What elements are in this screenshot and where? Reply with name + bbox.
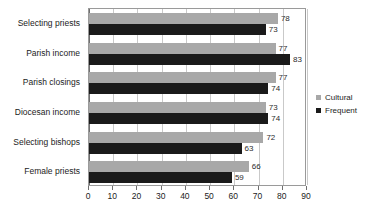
bar-value-label: 77 <box>279 43 288 54</box>
y-axis-label-1: Parish income <box>26 48 80 58</box>
gridline <box>162 9 163 185</box>
bar-frequent-3 <box>89 113 268 124</box>
bar-cultural-3 <box>89 102 266 113</box>
bar-frequent-4 <box>89 143 242 154</box>
x-axis-tick-label: 50 <box>204 191 213 201</box>
bar-value-label: 73 <box>269 24 278 35</box>
x-axis-tick <box>88 186 89 190</box>
y-axis-label-4: Selecting bishops <box>13 137 80 147</box>
x-axis-tick <box>112 186 113 190</box>
plot-area: 787377837774737472636659 <box>88 8 306 186</box>
bar-cultural-0 <box>89 13 278 24</box>
x-axis-tick <box>161 186 162 190</box>
x-axis-tick-label: 60 <box>229 191 238 201</box>
gridline <box>307 9 308 185</box>
gridline <box>210 9 211 185</box>
x-axis-tick-label: 70 <box>253 191 262 201</box>
x-axis-tick <box>209 186 210 190</box>
bar-cultural-4 <box>89 132 263 143</box>
bar-value-label: 77 <box>279 72 288 83</box>
legend-item-frequent[interactable]: Frequent <box>316 105 357 116</box>
gridline <box>186 9 187 185</box>
bar-chart: Selecting priestsParish incomeParish clo… <box>0 0 378 220</box>
legend-label: Cultural <box>325 92 353 103</box>
bar-value-label: 83 <box>293 54 302 65</box>
bar-value-label: 66 <box>252 161 261 172</box>
bar-frequent-1 <box>89 54 290 65</box>
bar-value-label: 74 <box>271 113 280 124</box>
chart-legend: CulturalFrequent <box>316 92 357 118</box>
bar-frequent-0 <box>89 24 266 35</box>
x-axis-tick-label: 80 <box>277 191 286 201</box>
legend-label: Frequent <box>325 105 357 116</box>
gridline <box>113 9 114 185</box>
x-axis-tick-label: 40 <box>180 191 189 201</box>
x-axis-tick <box>282 186 283 190</box>
bar-value-label: 74 <box>271 83 280 94</box>
x-axis-tick <box>258 186 259 190</box>
bar-value-label: 59 <box>235 172 244 183</box>
bar-frequent-2 <box>89 83 268 94</box>
bar-value-label: 78 <box>281 13 290 24</box>
bar-cultural-5 <box>89 161 249 172</box>
bar-cultural-2 <box>89 72 276 83</box>
gridline <box>234 9 235 185</box>
y-axis-labels: Selecting priestsParish incomeParish clo… <box>0 8 84 186</box>
x-axis-tick-label: 30 <box>156 191 165 201</box>
x-axis-tick <box>136 186 137 190</box>
x-axis-tick <box>233 186 234 190</box>
legend-swatch-frequent-icon <box>316 108 321 113</box>
y-axis-label-3: Diocesan income <box>15 107 80 117</box>
legend-item-cultural[interactable]: Cultural <box>316 92 357 103</box>
gridline <box>137 9 138 185</box>
bar-value-label: 72 <box>266 132 275 143</box>
y-axis-label-2: Parish closings <box>23 77 80 87</box>
gridline <box>283 9 284 185</box>
bar-value-label: 73 <box>269 102 278 113</box>
legend-swatch-cultural-icon <box>316 95 321 100</box>
y-axis-label-5: Female priests <box>24 166 80 176</box>
bar-cultural-1 <box>89 43 276 54</box>
x-axis-tick <box>185 186 186 190</box>
bar-value-label: 63 <box>245 143 254 154</box>
x-axis-tick <box>306 186 307 190</box>
x-axis: 0102030405060708090 <box>88 186 306 212</box>
y-axis-label-0: Selecting priests <box>18 18 80 28</box>
gridline <box>259 9 260 185</box>
x-axis-tick-label: 10 <box>107 191 116 201</box>
x-axis-tick-label: 20 <box>132 191 141 201</box>
y-axis-line <box>89 9 90 185</box>
bar-frequent-5 <box>89 172 232 183</box>
x-axis-tick-label: 0 <box>86 191 91 201</box>
x-axis-tick-label: 90 <box>301 191 310 201</box>
